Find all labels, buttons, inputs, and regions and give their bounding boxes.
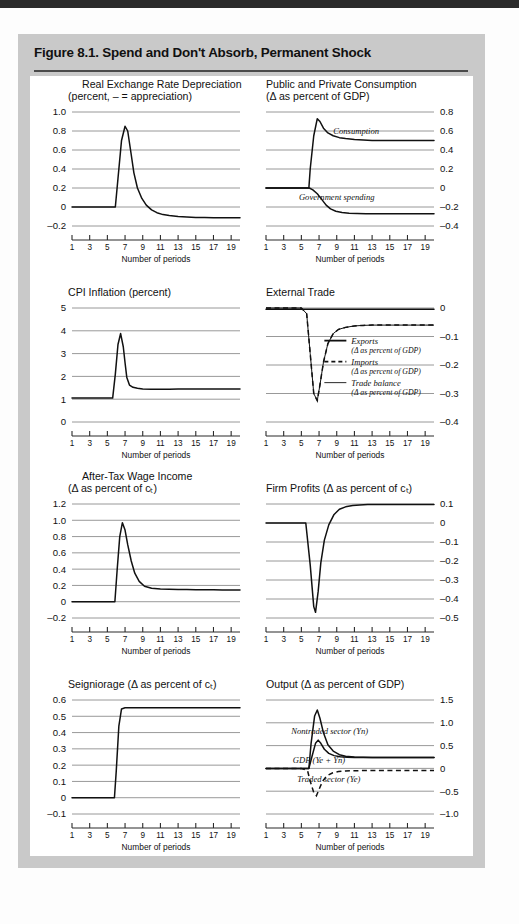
- legend-sublabel: (Δ as percent of GDP): [351, 388, 421, 397]
- x-tick-label: 13: [368, 831, 378, 840]
- page-top-band: [0, 0, 519, 8]
- series-line-cpi-inflation: [72, 334, 240, 399]
- x-tick-label: 1: [70, 635, 75, 644]
- x-tick-label: 9: [334, 831, 339, 840]
- x-axis-title: Number of periods: [122, 254, 191, 264]
- chart-title-group: External Trade: [266, 286, 335, 298]
- chart-subtitle: (Δ as percent of cₜ): [68, 482, 157, 494]
- chart-title: Seigniorage (Δ as percent of cₜ): [68, 678, 216, 690]
- x-tick-label: 19: [421, 635, 431, 644]
- x-axis: 135791113151719Number of periods: [264, 627, 434, 656]
- chart-seigniorage: Seigniorage (Δ as percent of cₜ)0.60.50.…: [30, 664, 251, 860]
- x-tick-label: 17: [403, 831, 413, 840]
- y-tick-label: 0.1: [440, 498, 453, 509]
- x-tick-label: 7: [317, 635, 322, 644]
- x-tick-label: 17: [403, 243, 413, 252]
- series-group: [72, 708, 240, 798]
- chart-svg-real-exchange-rate-depreciation: Real Exchange Rate Depreciation(percent,…: [30, 76, 251, 272]
- series-line-real-exchange-rate-depreciation: [72, 126, 240, 217]
- y-tick-label: 0: [440, 182, 445, 193]
- x-tick-label: 11: [156, 635, 165, 644]
- x-tick-label: 3: [281, 243, 286, 252]
- x-tick-label: 19: [421, 831, 431, 840]
- x-axis: 135791113151719Number of periods: [264, 235, 434, 264]
- x-tick-label: 5: [299, 635, 304, 644]
- x-tick-label: 11: [350, 439, 359, 448]
- series-annotation: Traded sector (Ye): [297, 774, 360, 784]
- x-tick-label: 7: [317, 439, 322, 448]
- x-tick-label: 15: [191, 439, 201, 448]
- figure-plot-area: Real Exchange Rate Depreciation(percent,…: [30, 76, 473, 856]
- series-group: [72, 126, 240, 217]
- x-axis: 135791113151719Number of periods: [264, 823, 434, 852]
- chart-title-group: Public and Private Consumption(Δ as perc…: [266, 78, 417, 102]
- y-tick-label: 4: [61, 325, 67, 336]
- chart-subtitle: (Δ as percent of GDP): [266, 90, 370, 102]
- legend-label: Trade balance: [351, 378, 401, 388]
- y-tick-label: –0.5: [440, 612, 459, 623]
- series-line-seigniorage: [72, 708, 240, 798]
- y-tick-label: 0.4: [53, 564, 67, 575]
- chart-subtitle: (percent, – = appreciation): [68, 90, 192, 102]
- y-gridlines: 0.10–0.1–0.2–0.3–0.4–0.5: [266, 498, 459, 623]
- x-tick-label: 3: [87, 243, 92, 252]
- chart-title: Public and Private Consumption: [266, 78, 417, 90]
- series-group: [72, 523, 240, 602]
- x-tick-label: 19: [421, 243, 431, 252]
- y-tick-label: –0.4: [440, 593, 459, 604]
- chart-title-group: Seigniorage (Δ as percent of cₜ): [68, 678, 216, 690]
- y-tick-label: –0.2: [47, 612, 66, 623]
- y-tick-label: 0: [440, 302, 445, 313]
- x-axis-title: Number of periods: [122, 646, 191, 656]
- x-axis: 135791113151719Number of periods: [70, 431, 240, 460]
- y-tick-label: 0.4: [440, 144, 454, 155]
- chart-firm-profits: Firm Profits (Δ as percent of cₜ)0.10–0.…: [252, 468, 473, 664]
- y-tick-label: –0.3: [440, 388, 459, 399]
- chart-svg-after-tax-wage-income: After-Tax Wage Income(Δ as percent of cₜ…: [30, 468, 251, 664]
- y-tick-label: 0.2: [53, 580, 66, 591]
- chart-after-tax-wage-income: After-Tax Wage Income(Δ as percent of cₜ…: [30, 468, 251, 664]
- figure-title: Figure 8.1. Spend and Don't Absorb, Perm…: [34, 45, 371, 60]
- legend-label: Imports: [350, 357, 378, 367]
- x-tick-label: 13: [174, 439, 184, 448]
- x-axis: 135791113151719Number of periods: [70, 235, 240, 264]
- y-tick-label: 0.2: [440, 163, 453, 174]
- chart-title-group: Output (Δ as percent of GDP): [266, 678, 404, 690]
- y-tick-label: 0.5: [440, 740, 453, 751]
- chart-title: CPI Inflation (percent): [68, 286, 171, 298]
- x-tick-label: 13: [174, 243, 184, 252]
- x-tick-label: 5: [105, 243, 110, 252]
- x-tick-label: 1: [70, 439, 75, 448]
- x-tick-label: 1: [70, 243, 75, 252]
- y-tick-label: 1.0: [53, 515, 66, 526]
- legend-sublabel: (Δ as percent of GDP): [351, 367, 421, 376]
- legend-label: Exports: [350, 336, 378, 346]
- x-tick-label: 5: [299, 243, 304, 252]
- chart-title: Firm Profits (Δ as percent of cₜ): [266, 482, 412, 494]
- legend-sublabel: (Δ as percent of GDP): [351, 346, 421, 355]
- y-tick-label: 3: [61, 348, 66, 359]
- x-axis-title: Number of periods: [122, 450, 191, 460]
- chart-real-exchange-rate-depreciation: Real Exchange Rate Depreciation(percent,…: [30, 76, 251, 272]
- x-axis-title: Number of periods: [122, 842, 191, 852]
- chart-title-group: CPI Inflation (percent): [68, 286, 171, 298]
- y-tick-label: 0: [61, 792, 66, 803]
- figure-frame: Figure 8.1. Spend and Don't Absorb, Perm…: [18, 34, 485, 868]
- chart-title: Output (Δ as percent of GDP): [266, 678, 404, 690]
- x-tick-label: 15: [191, 635, 201, 644]
- series-annotation: GDP (Ye + Yn): [293, 755, 345, 765]
- x-tick-label: 1: [264, 831, 269, 840]
- y-gridlines: 543210: [61, 302, 240, 427]
- x-tick-label: 7: [123, 635, 128, 644]
- y-gridlines: 1.00.80.60.40.20–0.2: [47, 106, 240, 231]
- chart-public-and-private-consumption: Public and Private Consumption(Δ as perc…: [252, 76, 473, 272]
- figure-title-bar: Figure 8.1. Spend and Don't Absorb, Perm…: [18, 34, 485, 76]
- x-axis-title: Number of periods: [316, 646, 385, 656]
- x-tick-label: 19: [227, 635, 237, 644]
- chart-title: Real Exchange Rate Depreciation: [82, 78, 242, 90]
- series-line-after-tax-wage-income: [72, 523, 240, 602]
- chart-svg-seigniorage: Seigniorage (Δ as percent of cₜ)0.60.50.…: [30, 664, 251, 860]
- y-tick-label: 0.2: [53, 760, 66, 771]
- x-tick-label: 19: [227, 831, 237, 840]
- y-tick-label: 0.6: [53, 547, 66, 558]
